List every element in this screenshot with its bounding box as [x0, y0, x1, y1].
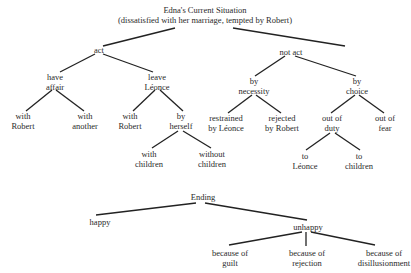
node-by-choice: by choice [346, 76, 368, 96]
node-label: happy [90, 217, 111, 227]
node-sublabel: Léonce [292, 161, 317, 171]
node-restrained-by-leonce: restrained by Léonce [208, 113, 244, 133]
node-label: rejected [265, 113, 299, 123]
node-sublabel: herself [169, 121, 192, 131]
node-label: by [169, 111, 192, 121]
node-out-of-fear: out of fear [375, 113, 395, 133]
node-sublabel: children [345, 161, 373, 171]
node-sublabel: children [198, 159, 226, 169]
node-to-children: to children [345, 151, 373, 171]
node-label: with [118, 111, 141, 121]
tree-edges [0, 0, 411, 273]
node-happy: happy [90, 217, 111, 227]
node-sublabel: choice [346, 86, 368, 96]
node-leave-leonce: leave Léonce [144, 72, 169, 92]
node-affair-with-robert: with Robert [11, 111, 34, 131]
node-sublabel: fear [375, 123, 395, 133]
node-leave-with-robert: with Robert [118, 111, 141, 131]
node-sublabel: affair [46, 82, 64, 92]
node-sublabel: another [72, 121, 98, 131]
node-label: unhappy [293, 222, 322, 232]
node-by-herself: by herself [169, 111, 192, 131]
node-to-leonce: to Léonce [292, 151, 317, 171]
node-edna-current-situation: Edna's Current Situation (dissatisfied w… [118, 5, 292, 25]
node-label: out of [322, 113, 342, 123]
node-sublabel: disillusionment [358, 258, 410, 268]
node-sublabel: by Léonce [208, 123, 244, 133]
node-affair-with-another: with another [72, 111, 98, 131]
node-sublabel: rejection [289, 258, 325, 268]
node-label: by [238, 76, 269, 86]
node-sublabel: children [135, 159, 163, 169]
node-label: act [94, 45, 104, 55]
node-with-children: with children [135, 149, 163, 169]
node-because-of-guilt: because of guilt [212, 248, 248, 268]
node-because-of-disillusionment: because of disillusionment [358, 248, 410, 268]
node-not-act: not act [280, 47, 303, 57]
node-label: because of [358, 248, 410, 258]
node-sublabel: (dissatisfied with her marriage, tempted… [118, 15, 292, 25]
node-sublabel: duty [322, 123, 342, 133]
node-label: without [198, 149, 226, 159]
node-label: to [345, 151, 373, 161]
node-label: leave [144, 72, 169, 82]
node-by-necessity: by necessity [238, 76, 269, 96]
node-label: to [292, 151, 317, 161]
node-label: Ending [191, 192, 216, 202]
node-label: have [46, 72, 64, 82]
node-sublabel: Léonce [144, 82, 169, 92]
node-label: Edna's Current Situation [118, 5, 292, 15]
node-sublabel: guilt [212, 258, 248, 268]
node-sublabel: necessity [238, 86, 269, 96]
node-label: by [346, 76, 368, 86]
node-unhappy: unhappy [293, 222, 322, 232]
node-label: with [72, 111, 98, 121]
node-sublabel: Robert [11, 121, 34, 131]
node-label: with [11, 111, 34, 121]
node-because-of-rejection: because of rejection [289, 248, 325, 268]
node-have-affair: have affair [46, 72, 64, 92]
node-sublabel: by Robert [265, 123, 299, 133]
node-label: out of [375, 113, 395, 123]
node-label: not act [280, 47, 303, 57]
node-without-children: without children [198, 149, 226, 169]
node-label: because of [289, 248, 325, 258]
node-rejected-by-robert: rejected by Robert [265, 113, 299, 133]
node-sublabel: Robert [118, 121, 141, 131]
node-ending: Ending [191, 192, 216, 202]
node-out-of-duty: out of duty [322, 113, 342, 133]
node-label: restrained [208, 113, 244, 123]
node-label: with [135, 149, 163, 159]
node-label: because of [212, 248, 248, 258]
node-act: act [94, 45, 104, 55]
